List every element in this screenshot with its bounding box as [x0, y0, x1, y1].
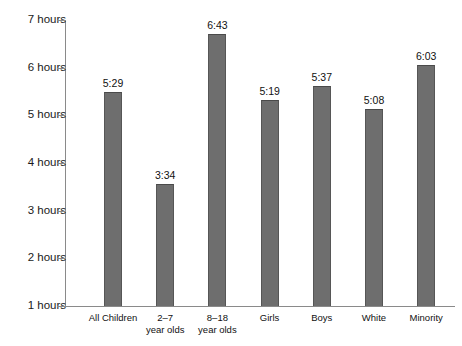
- x-axis-line: [65, 306, 455, 307]
- y-axis-tick-mark: [57, 20, 66, 21]
- y-axis-tick-mark: [57, 68, 66, 69]
- y-axis-tick-mark: [57, 306, 66, 307]
- y-axis-tick-mark: [57, 115, 66, 116]
- bar: [208, 34, 226, 306]
- bar-value-label: 3:34: [142, 170, 188, 181]
- bar-value-label: 5:37: [299, 72, 345, 83]
- bar: [104, 92, 122, 306]
- bar-value-label: 6:03: [403, 51, 449, 62]
- bar-value-label: 6:43: [194, 20, 240, 31]
- y-axis-tick-mark: [57, 211, 66, 212]
- bar: [365, 109, 383, 306]
- bar-value-label: 5:29: [90, 78, 136, 89]
- y-axis-tick-mark: [57, 163, 66, 164]
- bar: [261, 100, 279, 306]
- bar: [417, 65, 435, 306]
- x-axis-category-label: Minority: [391, 312, 461, 324]
- bar-value-label: 5:08: [351, 95, 397, 106]
- y-axis-tick-mark: [57, 258, 66, 259]
- bar-value-label: 5:19: [247, 86, 293, 97]
- bar-chart: 1 hours2 hours3 hours4 hours5 hours6 hou…: [0, 0, 462, 346]
- bar: [313, 86, 331, 306]
- bar: [156, 184, 174, 306]
